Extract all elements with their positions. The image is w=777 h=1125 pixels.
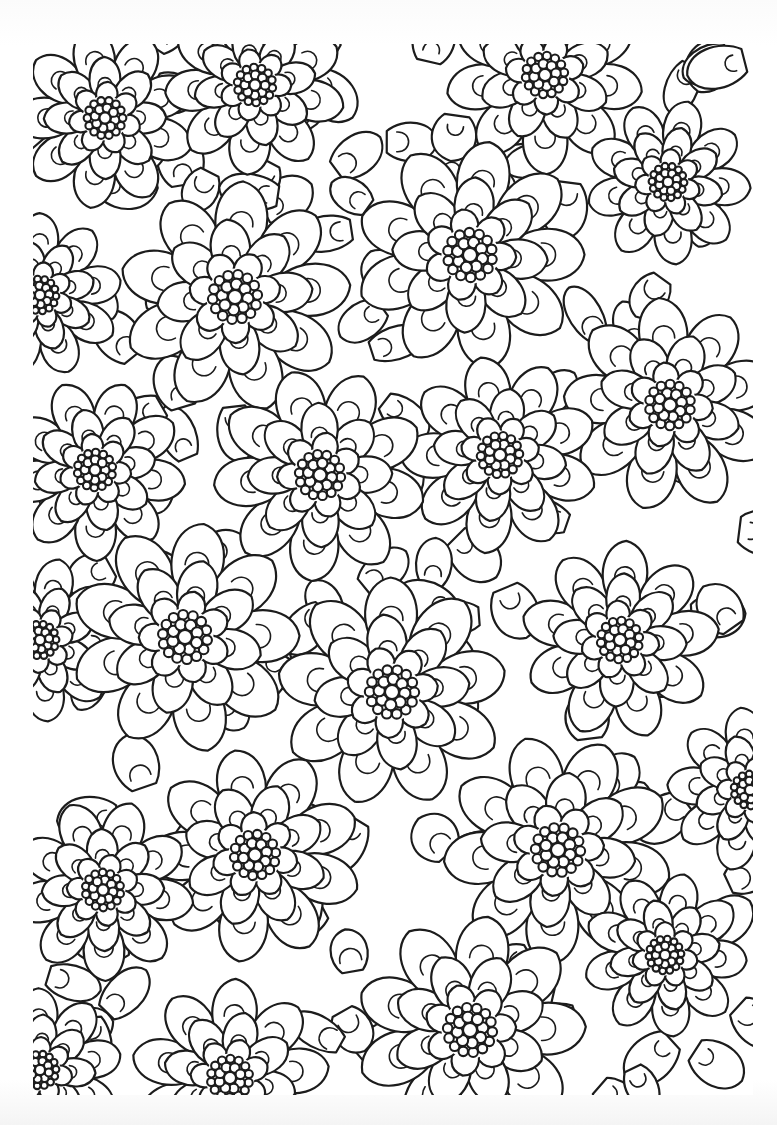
petal-scallop [397,132,409,152]
seed-circle [45,1068,53,1076]
seed-circle [296,478,305,487]
seed-circle [385,699,396,710]
floral-pattern-svg [33,44,753,1095]
center-seed-circle [35,1065,45,1075]
seed-circle [453,1007,463,1017]
seed-circle [158,629,168,639]
seed-circle [367,697,377,707]
flower [77,524,300,751]
center-seed-circle [35,635,45,645]
flower [524,541,719,735]
background-petal [113,735,159,791]
center-seed-circle [90,465,101,476]
seed-circle [444,256,454,266]
seed-circle [248,871,257,880]
seed-circle [105,131,112,138]
center-seed-circle [224,1072,236,1084]
petal-scallop [425,566,442,577]
petal-scallop [535,136,555,148]
center-seed-circle [660,950,670,960]
seed-circle [178,610,188,620]
center-seed-circle [614,634,626,646]
flower [33,804,193,981]
seed-circle [597,639,605,647]
center-seed-circle [178,630,192,644]
seed-circle [237,314,247,324]
seed-circle [226,1055,234,1063]
seed-circle [97,97,104,104]
seed-circle [223,271,233,281]
seed-circle [335,464,344,473]
seed-circle [82,890,89,897]
center-seed-circle [385,685,399,699]
coloring-page [0,0,777,1125]
center-seed-circle [35,290,45,300]
seed-circle [408,678,418,688]
seed-circle [253,830,262,839]
seed-circle [243,66,250,73]
center-seed-circle [249,849,262,862]
seed-circle [236,1069,246,1079]
seed-circle [261,81,270,90]
center-seed-circle [664,399,677,412]
center-seed-circle [98,885,109,896]
center-seed-circle [463,248,477,262]
flower [667,708,753,870]
seed-circle [317,458,327,468]
seed-circle [635,633,643,641]
center-seed-circle [463,1023,477,1037]
seed-circle [739,773,746,780]
seed-circle [487,245,497,255]
seed-circle [525,81,533,89]
seed-circle [33,1051,39,1058]
seed-circle [477,452,485,460]
seed-circle [41,1082,48,1089]
center-seed-circle [100,113,111,124]
seed-circle [557,867,567,877]
seed-circle [182,655,192,665]
center-seed-circle [663,177,673,187]
petal-scallop [689,778,700,795]
seed-circle [531,844,541,854]
background-petal [330,132,382,179]
seed-circle [540,840,551,851]
seed-circle [202,635,212,645]
background-petal [689,1040,744,1089]
center-seed-circle [314,469,327,482]
seed-circle [238,853,248,863]
center-seed-circle [250,80,261,91]
seed-circle [661,942,669,950]
center-seed-circle [551,843,565,857]
seed-circle [557,60,565,68]
center-seed-circle [539,69,551,81]
seed-circle [549,823,559,833]
seed-circle [478,1044,488,1054]
seed-circle [98,482,105,489]
seed-circle [84,450,91,457]
center-seed-circle [494,449,506,461]
seed-circle [466,273,476,283]
seed-circle [576,846,586,856]
seed-circle [461,262,472,273]
seed-circle [515,450,523,458]
seed-circle [45,635,53,643]
flower [133,979,328,1095]
center-seed-circle [228,290,242,304]
petal-scallop [664,232,681,243]
seed-circle [260,97,267,104]
seed-circle [116,882,123,889]
seed-circle [465,228,475,238]
floral-line-art [33,44,753,1095]
petal-scallop [290,1061,303,1081]
center-seed-circle [745,785,753,795]
